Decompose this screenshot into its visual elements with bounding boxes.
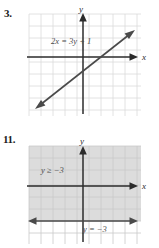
shaded-region-y-ge-neg3 xyxy=(29,146,141,221)
x-axis-label-11: x xyxy=(142,182,146,191)
problem-number-11: 11. xyxy=(3,134,15,145)
x-axis-label-3: x xyxy=(142,53,146,62)
y-axis-label-11: y xyxy=(80,137,84,146)
graph-figure-11: y x y ≥ −3 y = −3 xyxy=(29,146,141,244)
coordinate-plane-3 xyxy=(29,14,141,116)
y-axis-3 xyxy=(79,13,87,114)
y-axis-label-3: y xyxy=(79,5,83,14)
region-label-11: y ≥ −3 xyxy=(41,166,64,175)
equation-label-3: 2x = 3y + 1 xyxy=(51,37,91,46)
problem-number-3: 3. xyxy=(4,8,12,19)
graph-figure-3: y x 2x = 3y + 1 xyxy=(29,14,141,116)
boundary-label-11: y = −3 xyxy=(83,225,107,234)
worksheet-page: 3. xyxy=(0,0,159,248)
